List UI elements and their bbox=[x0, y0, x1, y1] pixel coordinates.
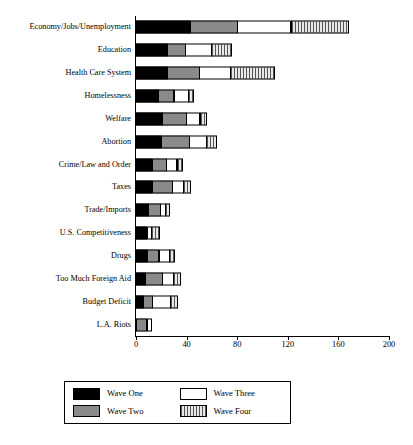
legend-item[interactable]: Wave Two bbox=[73, 405, 176, 417]
chart-row: Taxes bbox=[136, 176, 389, 199]
chart-row: Welfare bbox=[136, 107, 389, 130]
stacked-bar[interactable] bbox=[136, 295, 180, 308]
x-tick-label: 0 bbox=[134, 341, 138, 349]
bar-segment-wave-two[interactable] bbox=[167, 67, 200, 80]
category-label: Welfare bbox=[105, 115, 131, 123]
bar-segment-wave-two[interactable] bbox=[147, 249, 160, 262]
bar-segment-wave-four[interactable] bbox=[183, 181, 191, 194]
bar-segment-wave-four[interactable] bbox=[151, 227, 160, 240]
x-tick-label: 40 bbox=[182, 341, 190, 349]
bar-segment-wave-four[interactable] bbox=[211, 44, 233, 57]
x-tick-label: 160 bbox=[332, 341, 345, 349]
stacked-bar[interactable] bbox=[136, 89, 197, 102]
bar-segment-wave-three[interactable] bbox=[147, 318, 152, 331]
stacked-bar[interactable] bbox=[136, 318, 152, 331]
stacked-bar[interactable] bbox=[136, 272, 183, 285]
bar-segment-wave-one[interactable] bbox=[136, 21, 190, 34]
legend-swatch-w1 bbox=[73, 388, 100, 400]
legend-label: Wave Three bbox=[214, 389, 255, 398]
stacked-bar[interactable] bbox=[136, 112, 209, 125]
bar-segment-wave-four[interactable] bbox=[165, 204, 170, 217]
legend-item[interactable]: Wave Three bbox=[180, 388, 283, 400]
category-label: Taxes bbox=[112, 183, 131, 191]
bar-segment-wave-one[interactable] bbox=[136, 112, 163, 125]
chart-row: Crime/Law and Order bbox=[136, 153, 389, 176]
bar-segment-wave-one[interactable] bbox=[136, 67, 168, 80]
bar-segment-wave-two[interactable] bbox=[162, 112, 187, 125]
x-tick-label: 80 bbox=[233, 341, 241, 349]
bar-segment-wave-two[interactable] bbox=[190, 21, 238, 34]
bar-segment-wave-two[interactable] bbox=[152, 158, 167, 171]
bar-segment-wave-three[interactable] bbox=[199, 67, 231, 80]
stacked-bar[interactable] bbox=[136, 249, 178, 262]
category-label: U.S. Competitiveness bbox=[60, 229, 131, 237]
bar-segment-wave-four[interactable] bbox=[291, 21, 349, 34]
bar-segment-wave-four[interactable] bbox=[230, 67, 276, 80]
category-label: Too Much Foreign Aid bbox=[56, 275, 131, 283]
bar-segment-wave-one[interactable] bbox=[136, 44, 168, 57]
bar-segment-wave-four[interactable] bbox=[177, 158, 183, 171]
category-label: Abortion bbox=[101, 138, 131, 146]
bar-segment-wave-four[interactable] bbox=[173, 272, 181, 285]
x-tick-label: 200 bbox=[383, 341, 396, 349]
bar-segment-wave-three[interactable] bbox=[185, 44, 212, 57]
bar-segment-wave-three[interactable] bbox=[237, 21, 291, 34]
chart-row: Health Care System bbox=[136, 62, 389, 85]
category-label: Health Care System bbox=[66, 69, 131, 77]
stacked-bar[interactable] bbox=[136, 204, 173, 217]
legend-item[interactable]: Wave Four bbox=[180, 405, 283, 417]
bar-segment-wave-one[interactable] bbox=[136, 181, 152, 194]
category-label: Crime/Law and Order bbox=[59, 160, 131, 168]
stacked-bar[interactable] bbox=[136, 227, 161, 240]
bar-segment-wave-two[interactable] bbox=[145, 272, 163, 285]
stacked-bar[interactable] bbox=[136, 21, 351, 34]
chart-row: Trade/Imports bbox=[136, 199, 389, 222]
plot-area: Economy/Jobs/UnemploymentEducationHealth… bbox=[136, 16, 389, 336]
bar-segment-wave-two[interactable] bbox=[167, 44, 186, 57]
category-label: Budget Deficit bbox=[83, 298, 131, 306]
bar-segment-wave-four[interactable] bbox=[200, 112, 208, 125]
chart-row: L.A. Riots bbox=[136, 313, 389, 336]
bar-segment-wave-three[interactable] bbox=[186, 112, 200, 125]
bar-segment-wave-one[interactable] bbox=[136, 135, 161, 148]
bar-segment-wave-three[interactable] bbox=[152, 295, 171, 308]
chart-row: Homelessness bbox=[136, 85, 389, 108]
bar-segment-wave-four[interactable] bbox=[169, 249, 175, 262]
category-label: Education bbox=[98, 46, 131, 54]
x-axis-line bbox=[135, 336, 389, 337]
bar-segment-wave-one[interactable] bbox=[136, 204, 149, 217]
stacked-bar[interactable] bbox=[136, 135, 219, 148]
bar-segment-wave-one[interactable] bbox=[136, 89, 159, 102]
stacked-bar[interactable] bbox=[136, 67, 278, 80]
category-label: Homelessness bbox=[85, 92, 131, 100]
bar-segment-wave-four[interactable] bbox=[206, 135, 217, 148]
bar-segment-wave-two[interactable] bbox=[152, 181, 174, 194]
category-label: L.A. Riots bbox=[97, 320, 131, 328]
stacked-bar[interactable] bbox=[136, 44, 235, 57]
legend-swatch-w2 bbox=[73, 405, 100, 417]
bar-segment-wave-two[interactable] bbox=[158, 89, 174, 102]
chart-row: Drugs bbox=[136, 245, 389, 268]
chart-row: Education bbox=[136, 39, 389, 62]
legend-item[interactable]: Wave One bbox=[73, 388, 176, 400]
chart-row: Economy/Jobs/Unemployment bbox=[136, 16, 389, 39]
stacked-bar[interactable] bbox=[136, 158, 185, 171]
chart-row: Budget Deficit bbox=[136, 290, 389, 313]
bar-segment-wave-one[interactable] bbox=[136, 158, 152, 171]
legend-swatch-w3 bbox=[180, 388, 207, 400]
chart-row: Abortion bbox=[136, 130, 389, 153]
bar-segment-wave-four[interactable] bbox=[170, 295, 178, 308]
stacked-bar[interactable] bbox=[136, 181, 193, 194]
bar-segment-wave-three[interactable] bbox=[189, 135, 207, 148]
legend-label: Wave Four bbox=[214, 407, 252, 416]
chart-row: Too Much Foreign Aid bbox=[136, 267, 389, 290]
bar-segment-wave-two[interactable] bbox=[161, 135, 190, 148]
x-tick-label: 120 bbox=[282, 341, 295, 349]
chart-row: U.S. Competitiveness bbox=[136, 222, 389, 245]
bar-segment-wave-three[interactable] bbox=[174, 89, 189, 102]
bar-segment-wave-four[interactable] bbox=[188, 89, 194, 102]
chart-legend: Wave OneWave ThreeWave TwoWave Four bbox=[64, 381, 291, 424]
stacked-bar-chart: Economy/Jobs/UnemploymentEducationHealth… bbox=[0, 0, 413, 445]
category-label: Economy/Jobs/Unemployment bbox=[30, 23, 131, 31]
bar-segment-wave-two[interactable] bbox=[148, 204, 161, 217]
